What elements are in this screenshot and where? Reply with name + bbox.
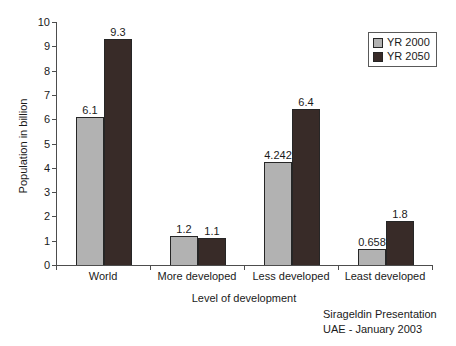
y-tick-label: 3 [26, 186, 50, 198]
bar-yr-2050-world: 9.3 [104, 39, 132, 265]
bar-yr-2050-more-developed: 1.1 [198, 238, 226, 265]
y-tick-label: 0 [26, 259, 50, 271]
legend-box: YR 2000YR 2050 [368, 32, 437, 67]
bar-value-label: 6.1 [82, 104, 97, 116]
x-tick [432, 266, 433, 270]
bar-value-label: 1.8 [392, 208, 407, 220]
legend-label-yr-2000: YR 2000 [387, 36, 430, 49]
bar-value-label: 9.3 [110, 26, 125, 38]
y-tick-label: 5 [26, 138, 50, 150]
bar-chart-figure: Population in billion 012345678910 6.19.… [0, 0, 456, 346]
bar-value-label: 4.242 [264, 149, 292, 161]
legend-entry-yr-2000: YR 2000 [373, 36, 430, 49]
y-tick-label: 2 [26, 210, 50, 222]
citation-line-2: UAE - January 2003 [323, 322, 437, 337]
bar-group-less-developed: 4.2426.4 [245, 22, 339, 265]
y-tick-label: 8 [26, 65, 50, 77]
y-tick-label: 10 [26, 16, 50, 28]
bar-group-more-developed: 1.21.1 [151, 22, 245, 265]
bar-yr-2000-more-developed: 1.2 [170, 236, 198, 265]
citation-line-1: Sirageldin Presentation [323, 307, 437, 322]
x-axis-title: Level of development [56, 292, 432, 304]
bar-yr-2000-least-developed: 0.658 [358, 249, 386, 265]
y-tick-label: 6 [26, 113, 50, 125]
legend-label-yr-2050: YR 2050 [387, 50, 430, 63]
bar-value-label: 1.1 [204, 225, 219, 237]
category-label-more-developed: More developed [150, 270, 244, 283]
bar-yr-2000-world: 6.1 [76, 117, 104, 265]
bar-value-label: 0.658 [358, 236, 386, 248]
y-tick-label: 1 [26, 235, 50, 247]
bar-value-label: 6.4 [298, 96, 313, 108]
bar-yr-2000-less-developed: 4.242 [264, 162, 292, 265]
bar-group-world: 6.19.3 [57, 22, 151, 265]
legend-entry-yr-2050: YR 2050 [373, 50, 430, 63]
bar-yr-2050-least-developed: 1.8 [386, 221, 414, 265]
y-tick-label: 7 [26, 89, 50, 101]
category-label-least-developed: Least developed [338, 270, 432, 283]
category-label-world: World [56, 270, 150, 283]
y-tick-label: 9 [26, 40, 50, 52]
y-tick-label: 4 [26, 162, 50, 174]
bar-yr-2050-less-developed: 6.4 [292, 109, 320, 265]
legend-swatch-yr-2050 [373, 52, 383, 62]
legend-swatch-yr-2000 [373, 38, 383, 48]
category-label-less-developed: Less developed [244, 270, 338, 283]
bar-value-label: 1.2 [176, 223, 191, 235]
citation: Sirageldin Presentation UAE - January 20… [323, 307, 437, 337]
